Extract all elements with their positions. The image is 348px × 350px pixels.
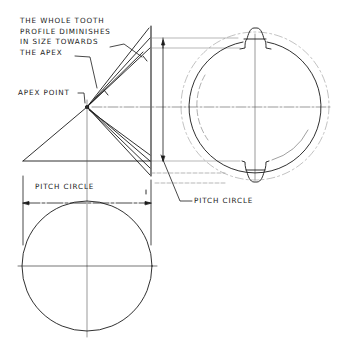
apex-leader <box>78 93 85 103</box>
end-view-root-arc-left <box>197 75 208 140</box>
end-view-root-arc-right <box>272 130 308 160</box>
plan-view <box>18 201 157 331</box>
tooth-tick-2 <box>104 90 108 95</box>
cone-left-edge <box>23 107 87 161</box>
bottom-tooth-profile <box>242 161 269 182</box>
tooth-line-bottom-3 <box>87 107 150 175</box>
note-line-2: PROFILE DIMINISHES <box>20 27 111 38</box>
pitch-circle-leader <box>161 155 192 201</box>
arrow-left-icon <box>23 202 29 205</box>
dimension-arrows <box>162 38 165 161</box>
tooth-tick-1 <box>143 56 147 61</box>
tooth-note-leader-2 <box>110 44 142 57</box>
note-line-4: THE APEX <box>20 48 111 59</box>
tooth-line-top-4 <box>90 52 143 104</box>
apex-point-label: APEX POINT <box>18 88 70 98</box>
top-tooth-profile <box>240 28 271 49</box>
note-line-1: THE WHOLE TOOTH <box>20 16 111 27</box>
pitch-circle-dimension-label: PITCH CIRCLE <box>35 182 94 192</box>
leaders <box>75 44 192 201</box>
arrow-right-icon <box>145 202 151 205</box>
tooth-note-leader <box>75 56 97 88</box>
centre-lines <box>87 34 330 337</box>
tooth-profile-note: THE WHOLE TOOTH PROFILE DIMINISHES IN SI… <box>20 16 111 58</box>
tooth-line-bottom-4 <box>89 110 150 155</box>
pitch-circle-leader-label: PITCH CIRCLE <box>194 196 253 206</box>
tooth-line-bottom-2 <box>87 107 150 168</box>
note-line-3: IN SIZE TOWARDS <box>20 37 111 48</box>
